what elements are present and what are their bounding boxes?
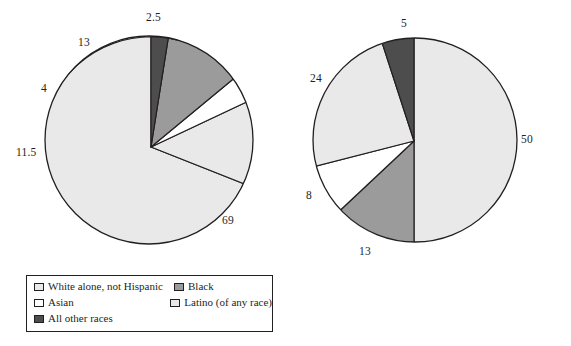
legend-swatch-latino-icon	[170, 299, 180, 307]
pie-left-value-label: 13	[78, 37, 90, 49]
legend-item-latino: Latino (of any race)	[170, 297, 272, 308]
pie-right-value-label: 5	[401, 18, 407, 30]
legend-item-all-other-races: All other races	[34, 313, 174, 324]
pie-chart-left: 2.5 13 4 11.5 69 White alone, not Hispan…	[0, 0, 285, 346]
figure-root: 2.5 13 4 11.5 69 White alone, not Hispan…	[0, 0, 571, 346]
legend-row: All other races	[34, 313, 272, 329]
pie-left-value-label: 11.5	[16, 147, 37, 159]
legend-swatch-all-other-races-icon	[34, 315, 44, 323]
pie-right-slices	[306, 33, 522, 249]
pie-right-value-label: 24	[310, 73, 322, 85]
legend-left: White alone, not Hispanic Black Asian La…	[26, 275, 273, 332]
pie-left-svg	[0, 0, 285, 270]
pie-right-value-label: 50	[521, 134, 533, 146]
legend-label: Latino (of any race)	[184, 297, 272, 308]
pie-chart-right: 5 24 50 8 13 White alone, not Hispanic B…	[286, 0, 571, 346]
pie-right-canvas: 5 24 50 8 13	[286, 0, 571, 270]
legend-label: White alone, not Hispanic	[48, 281, 163, 292]
pie-right-value-label: 8	[306, 190, 312, 202]
legend-row: White alone, not Hispanic Black	[34, 281, 272, 297]
legend-label: Black	[188, 281, 214, 292]
legend-label: Asian	[48, 297, 74, 308]
pie-left-value-label: 69	[222, 215, 234, 227]
pie-slice	[414, 33, 522, 249]
legend-label: All other races	[48, 313, 113, 324]
pie-left-value-label: 4	[41, 83, 47, 95]
pie-left-canvas: 2.5 13 4 11.5 69	[0, 0, 285, 270]
legend-item-asian: Asian	[34, 297, 170, 308]
legend-swatch-asian-icon	[34, 299, 44, 307]
legend-swatch-black-icon	[174, 283, 184, 291]
legend-item-black: Black	[174, 281, 214, 292]
legend-swatch-white-alone-icon	[34, 283, 44, 291]
pie-right-value-label: 13	[359, 246, 371, 258]
legend-row: Asian Latino (of any race)	[34, 297, 272, 313]
legend-item-white-alone: White alone, not Hispanic	[34, 281, 174, 292]
pie-left-value-label: 2.5	[146, 12, 161, 24]
